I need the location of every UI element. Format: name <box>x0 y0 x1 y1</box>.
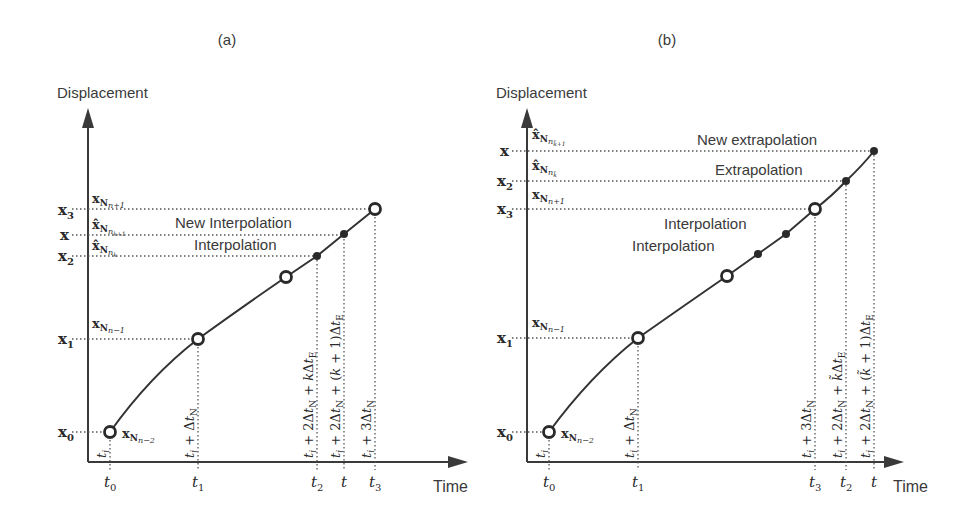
point-x3 <box>370 204 381 215</box>
svg-text:x̂Nnk: x̂Nnk <box>92 238 117 258</box>
svg-text:x2: x2 <box>497 172 513 192</box>
svg-text:xNn−1: xNn−1 <box>92 316 125 335</box>
point-interp-2 <box>782 230 790 238</box>
figure-canvas: (a) Displacement Time <box>0 0 980 513</box>
svg-text:ti + 2ΔtN + kΔtE: ti + 2ΔtN + kΔtE <box>301 352 318 458</box>
panel-a-label: (a) <box>218 31 236 48</box>
point-interp-1 <box>754 250 762 258</box>
svg-text:x2: x2 <box>58 247 74 267</box>
annotation-new-extrapolation: New extrapolation <box>697 131 817 148</box>
x-tick-labels: t0 t1 t2 t t3 <box>104 473 381 493</box>
svg-text:x: x <box>60 226 70 244</box>
x-tick-labels: t0 t1 t3 t2 t <box>543 473 878 493</box>
annotation-interpolation: Interpolation <box>194 236 277 253</box>
svg-text:t1: t1 <box>632 473 644 493</box>
svg-text:xNn−1: xNn−1 <box>532 315 565 334</box>
point-x-new-extrap <box>870 147 878 155</box>
svg-text:xNn+1: xNn+1 <box>532 187 565 206</box>
point-x-new-interp <box>340 230 348 238</box>
svg-text:ti + 2ΔtN + (k̃ + 1)ΔtE: ti + 2ΔtN + (k̃ + 1)ΔtE <box>857 314 875 458</box>
svg-text:xNn−2: xNn−2 <box>122 426 155 445</box>
svg-text:ti + 3ΔtN: ti + 3ΔtN <box>799 400 816 458</box>
point-x1 <box>633 333 644 344</box>
svg-text:t0: t0 <box>104 473 116 493</box>
svg-text:t0: t0 <box>543 473 555 493</box>
point-x2-interp <box>313 252 321 260</box>
svg-text:ti + ΔtN: ti + ΔtN <box>182 408 199 458</box>
svg-text:x3: x3 <box>58 201 74 221</box>
point-labels: xNn+1 x̂Nnk+1 x̂Nnk xNn−1 xNn−2 <box>92 191 155 445</box>
x-axis-arrow-icon <box>448 456 468 468</box>
point-x2-extrap <box>842 177 850 185</box>
svg-text:t3: t3 <box>369 473 381 493</box>
y-axis-arrow-icon <box>521 108 533 128</box>
svg-text:x1: x1 <box>58 330 74 350</box>
panel-b: (b) Displacement Time x <box>496 31 928 495</box>
svg-text:t: t <box>341 473 348 491</box>
svg-text:xNn+1: xNn+1 <box>92 191 125 210</box>
x-axis-label: Time <box>433 478 468 495</box>
svg-text:x: x <box>500 142 510 160</box>
svg-text:x̂Nnk+1: x̂Nnk+1 <box>92 217 126 237</box>
y-tick-labels: x x2 x3 x1 x0 <box>497 142 513 443</box>
x-axis-label: Time <box>893 478 928 495</box>
point-x1 <box>193 334 204 345</box>
point-x3 <box>810 204 821 215</box>
svg-text:t2: t2 <box>311 473 323 493</box>
svg-text:ti + 3ΔtN: ti + 3ΔtN <box>359 400 376 458</box>
svg-text:ti: ti <box>533 450 550 458</box>
svg-text:x1: x1 <box>497 329 513 349</box>
y-axis-label: Displacement <box>496 84 588 101</box>
y-axis-arrow-icon <box>82 108 94 128</box>
point-x0 <box>544 427 555 438</box>
panel-b-label: (b) <box>658 31 676 48</box>
svg-text:x3: x3 <box>497 200 513 220</box>
svg-text:t: t <box>871 473 878 491</box>
svg-text:ti + 2ΔtN + (k + 1)ΔtE: ti + 2ΔtN + (k + 1)ΔtE <box>328 314 345 458</box>
y-tick-labels: x3 x x2 x1 x0 <box>58 201 74 443</box>
x-axis-arrow-icon <box>884 456 904 468</box>
svg-text:t1: t1 <box>192 473 204 493</box>
annotation-new-interpolation: New Interpolation <box>175 214 292 231</box>
svg-text:x0: x0 <box>58 423 74 443</box>
annotation-extrapolation: Extrapolation <box>715 161 803 178</box>
point-labels: x̂Nnk̃+1 x̂Nnk̃ xNn+1 xNn−1 xNn−2 <box>532 127 594 445</box>
svg-text:t3: t3 <box>809 473 821 493</box>
displacement-curve <box>549 151 874 432</box>
svg-text:ti + 2ΔtN + k̃ΔtE: ti + 2ΔtN + k̃ΔtE <box>829 352 847 458</box>
svg-text:ti + ΔtN: ti + ΔtN <box>622 408 639 458</box>
annotation-interpolation-2: Interpolation <box>632 237 715 254</box>
svg-text:t2: t2 <box>840 473 852 493</box>
point-mid <box>722 271 733 282</box>
svg-text:x̂Nnk̃+1: x̂Nnk̃+1 <box>532 127 566 147</box>
panel-a: (a) Displacement Time <box>57 31 468 495</box>
annotation-interpolation-1: Interpolation <box>664 215 747 232</box>
point-x0 <box>105 427 116 438</box>
point-mid <box>281 272 292 283</box>
svg-text:ti: ti <box>94 450 111 458</box>
svg-text:xNn−2: xNn−2 <box>561 426 594 445</box>
svg-text:x0: x0 <box>497 423 513 443</box>
svg-text:x̂Nnk̃: x̂Nnk̃ <box>532 158 557 178</box>
y-axis-label: Displacement <box>57 84 149 101</box>
